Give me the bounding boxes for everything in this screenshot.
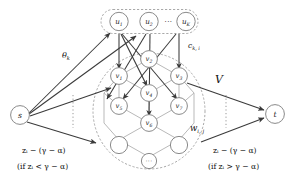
left-condition-label: (if zᵢ < γ − α) [17, 162, 68, 171]
u-layer-nodes: u1 u2 ··· uK [110, 12, 195, 30]
edge-s-v1 [30, 88, 111, 116]
node-source-label: s [18, 111, 22, 120]
capacity-annotations: zᵢ − (γ − α) (if zᵢ < γ − α) zᵢ − (γ − α… [17, 146, 259, 171]
right-condition-label: (if zᵢ > γ − α) [208, 162, 259, 171]
left-capacity-label: zᵢ − (γ − α) [22, 146, 66, 155]
edge-u2-v6 [149, 34, 150, 116]
edge-v3-t [187, 83, 264, 110]
set-V-label: V [215, 73, 224, 86]
theta-k-label: θk [62, 51, 70, 61]
right-capacity-label: zᵢ − (γ − α) [213, 146, 257, 155]
node-lattice-bottom-left[interactable] [110, 136, 127, 153]
c-ki-label: ck, i [188, 41, 200, 51]
u-layer-ellipsis: ··· [165, 18, 173, 26]
edge-vBR-t [201, 118, 264, 142]
w-ij-label: wi, j [190, 123, 205, 135]
flow-network-diagram: u1 u2 ··· uK v2 v1 v3 v4 v5 v7 v6 [0, 0, 298, 185]
diagram-canvas: u1 u2 ··· uK v2 v1 v3 v4 v5 v7 v6 [0, 0, 298, 185]
edge-s-vBL [27, 122, 96, 143]
edge-s-u1 [29, 33, 110, 113]
lattice-ellipsis-label: ··· [146, 157, 153, 164]
source-to-u-arrows [27, 33, 136, 143]
node-lattice-bottom-right[interactable] [170, 136, 187, 153]
